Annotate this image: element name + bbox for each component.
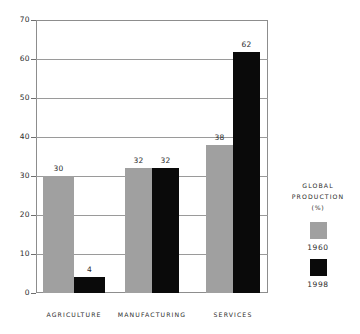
- bar-agriculture-1960[interactable]: [43, 176, 74, 293]
- bar-value-agriculture-1960: 30: [41, 165, 76, 173]
- bar-value-services-1960: 38: [202, 134, 237, 142]
- category-label-agriculture: AGRICULTURE: [34, 311, 114, 319]
- legend-label-1960: 1960: [281, 244, 355, 252]
- category-label-manufacturing: MANUFACTURING: [112, 311, 192, 319]
- bar-value-manufacturing-1998: 32: [148, 157, 183, 165]
- bar-value-agriculture-1998: 4: [72, 266, 107, 274]
- legend-label-1998: 1998: [281, 281, 355, 289]
- legend-item-1998[interactable]: 1998: [281, 259, 355, 289]
- legend-swatch-1960: [310, 222, 327, 239]
- bar-services-1998[interactable]: [233, 52, 260, 293]
- legend-title-line1: GLOBAL: [281, 180, 355, 191]
- legend-unit: (%): [281, 202, 355, 213]
- legend-title-line2: PRODUCTION: [281, 191, 355, 202]
- bar-agriculture-1998[interactable]: [74, 277, 105, 293]
- category-label-services: SERVICES: [193, 311, 273, 319]
- legend: GLOBAL PRODUCTION (%) 1960 1998: [281, 180, 355, 289]
- legend-swatch-1998: [310, 259, 327, 276]
- bar-manufacturing-1960[interactable]: [125, 168, 152, 293]
- bar-value-services-1998: 62: [229, 41, 264, 49]
- bar-chart: 70 60 50 40 30 20 10 0 30 4: [0, 0, 360, 334]
- bar-manufacturing-1998[interactable]: [152, 168, 179, 293]
- bar-services-1960[interactable]: [206, 145, 233, 293]
- legend-item-1960[interactable]: 1960: [281, 222, 355, 252]
